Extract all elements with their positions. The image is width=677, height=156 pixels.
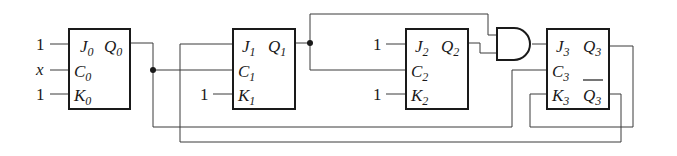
ff2-k-input-label: 1 — [373, 85, 382, 104]
ff0-j-input-label: 1 — [36, 35, 45, 54]
ff0-c-input-label: x — [35, 60, 44, 79]
jk-flip-flop-2: J2 Q2 C2 K2 — [406, 29, 468, 109]
junction-q0 — [150, 67, 156, 73]
q1-to-c2-wire — [310, 43, 406, 70]
ff1-k-input-label: 1 — [200, 85, 209, 104]
q2-to-and-wire — [468, 43, 497, 53]
jk-flip-flop-3: J3 Q3 C3 K3 Q3 — [547, 29, 609, 109]
jk-flip-flop-1: J1 Q1 C1 K1 — [233, 29, 295, 109]
ff2-j-input-label: 1 — [373, 35, 382, 54]
and-gate — [497, 28, 530, 60]
circuit-diagram: J0 Q0 C0 K0 J1 Q1 C1 K1 J2 Q2 C2 K2 J3 Q… — [0, 0, 677, 156]
ff0-k-input-label: 1 — [36, 85, 45, 104]
junction-q1 — [307, 40, 313, 46]
q0-wire — [130, 43, 547, 127]
jk-flip-flop-0: J0 Q0 C0 K0 — [69, 29, 130, 109]
